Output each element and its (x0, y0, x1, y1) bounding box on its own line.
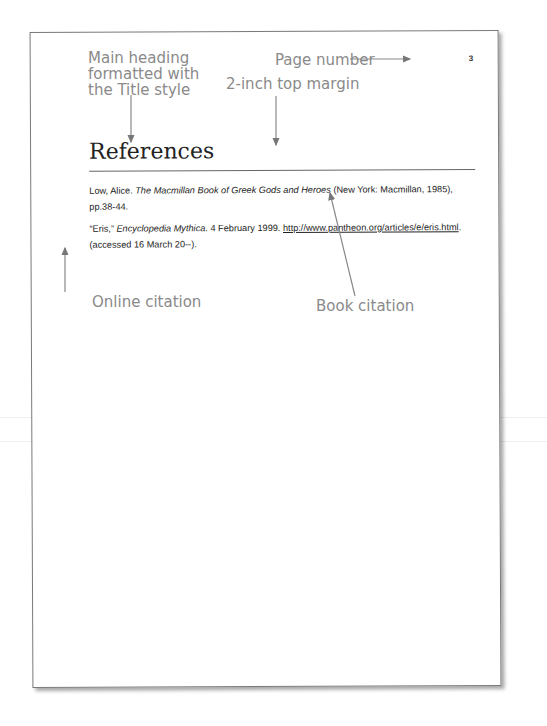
arrow-book-citation (330, 193, 355, 296)
callout-arrows (0, 0, 547, 726)
